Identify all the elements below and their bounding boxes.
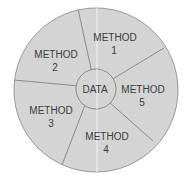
- center-label: DATA: [82, 84, 108, 95]
- segment-2-line2: 2: [52, 62, 58, 73]
- segment-4-line2: 4: [103, 144, 109, 155]
- segment-5-line1: METHOD: [121, 84, 164, 95]
- method-wheel-diagram: DATA METHOD 1 METHOD 2 METHOD 3 METHOD 4…: [0, 0, 188, 185]
- segment-5-line2: 5: [139, 97, 145, 108]
- segment-2-line1: METHOD: [34, 49, 77, 60]
- segment-1-line2: 1: [111, 45, 117, 56]
- segment-4-line1: METHOD: [85, 131, 128, 142]
- segment-3-line2: 3: [48, 118, 54, 129]
- segment-3-line1: METHOD: [29, 105, 72, 116]
- segment-1-line1: METHOD: [93, 32, 136, 43]
